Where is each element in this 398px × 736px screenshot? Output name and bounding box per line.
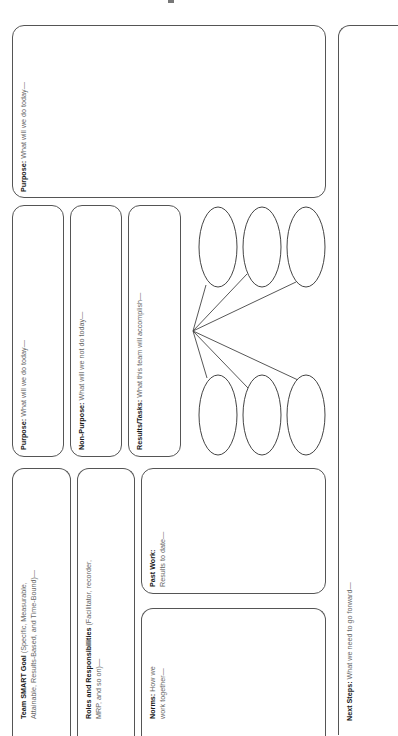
purpose-large-box[interactable]: Purpose: What will we do today—: [12, 25, 326, 198]
next-steps-prompt: What we need to go forward—: [345, 582, 354, 681]
result-oval-1[interactable]: [199, 207, 237, 287]
purpose-large-text: Purpose: What will we do today—: [19, 32, 29, 192]
smart-goal-box[interactable]: Team SMART Goal (Specific, Measurable, A…: [12, 468, 71, 736]
norms-label: Norms:: [148, 694, 157, 719]
results-tasks-prompt: What this team will accomplish—: [135, 293, 144, 400]
connector-line: [193, 331, 207, 378]
norms-box[interactable]: Norms: How we work together—: [141, 608, 326, 736]
connector-line: [193, 331, 298, 380]
results-tasks-text: Results/Tasks: What this team will accom…: [135, 220, 145, 450]
result-oval-5[interactable]: [243, 375, 281, 455]
past-work-prompt: Results to date—: [158, 532, 167, 587]
connector-line: [193, 274, 247, 331]
past-work-label: Past Work:: [148, 550, 157, 587]
result-oval-4[interactable]: [199, 375, 237, 455]
purpose-box[interactable]: Purpose: What will we do today—: [12, 205, 64, 457]
connector-line: [193, 285, 206, 331]
purpose-text: Purpose: What will we do today—: [19, 250, 29, 450]
next-steps-label: Next Steps:: [345, 681, 354, 721]
purpose-prompt: What will we do today—: [19, 340, 28, 419]
page-edge-mark: [168, 0, 174, 3]
purpose-large-prompt: What will we do today—: [19, 82, 28, 161]
purpose-large-label: Purpose:: [19, 161, 28, 192]
non-purpose-label: Non-Purpose:: [77, 402, 86, 450]
non-purpose-box[interactable]: Non-Purpose: What will we not do today—: [70, 205, 122, 457]
next-steps-text: Next Steps: What we need to go forward—: [345, 521, 355, 721]
result-oval-2[interactable]: [243, 207, 281, 287]
roles-box[interactable]: Roles and Responsibilities (Facilitator,…: [77, 468, 135, 736]
next-steps-box[interactable]: Next Steps: What we need to go forward—: [338, 25, 398, 735]
roles-label: Roles and Responsibilities: [84, 628, 93, 719]
purpose-label: Purpose:: [19, 419, 28, 450]
non-purpose-text: Non-Purpose: What will we not do today—: [77, 230, 87, 450]
past-work-box[interactable]: Past Work: Results to date—: [141, 468, 326, 594]
result-oval-3[interactable]: [287, 207, 325, 287]
norms-text: Norms: How we work together—: [148, 657, 167, 719]
connector-line: [193, 282, 296, 331]
result-oval-6[interactable]: [287, 375, 325, 455]
connector-line: [193, 331, 248, 388]
results-tasks-box[interactable]: Results/Tasks: What this team will accom…: [128, 205, 181, 457]
past-work-text: Past Work: Results to date—: [148, 525, 167, 587]
smart-goal-label: Team SMART Goal: [19, 655, 28, 719]
smart-goal-text: Team SMART Goal (Specific, Measurable, A…: [19, 554, 38, 719]
non-purpose-prompt: What will we not do today—: [77, 312, 86, 403]
roles-text: Roles and Responsibilities (Facilitator,…: [84, 554, 103, 719]
results-tasks-label: Results/Tasks:: [135, 400, 144, 450]
